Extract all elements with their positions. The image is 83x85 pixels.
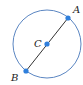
label-c: C (34, 38, 42, 49)
circle-diagram: A C B (0, 0, 83, 85)
point-b (23, 68, 28, 73)
label-a: A (72, 4, 80, 15)
point-a (65, 15, 70, 20)
label-b: B (10, 72, 18, 83)
point-c (44, 41, 49, 46)
